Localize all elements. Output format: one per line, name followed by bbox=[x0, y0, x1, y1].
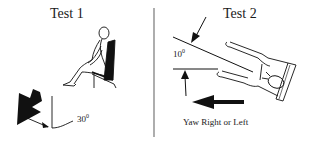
lower-arm-outer bbox=[222, 71, 248, 78]
test2-angle-label: 100 bbox=[173, 48, 185, 59]
arm bbox=[88, 46, 101, 63]
test1-angle-value: 30 bbox=[77, 114, 86, 124]
test1-angle-diagram bbox=[17, 89, 73, 128]
thigh-top bbox=[80, 60, 92, 68]
chair-back bbox=[104, 40, 115, 80]
small-arrowhead-icon bbox=[42, 122, 49, 128]
yaw-left-arrow-icon bbox=[192, 95, 214, 109]
seated-person-figure bbox=[63, 27, 116, 88]
yaw-arrow-shaft bbox=[212, 100, 244, 104]
shin-back bbox=[74, 72, 82, 84]
upper-arm bbox=[226, 42, 270, 66]
upper-arm-outer bbox=[230, 42, 268, 58]
head bbox=[99, 27, 109, 39]
test2-title: Test 2 bbox=[223, 6, 257, 22]
horizontal-pointer-arrowhead-icon bbox=[181, 70, 189, 79]
test1-angle-degree: 0 bbox=[86, 113, 89, 119]
test2-angle-value: 10 bbox=[173, 49, 182, 59]
torso-line bbox=[260, 64, 262, 80]
test1-angle-label: 300 bbox=[77, 113, 89, 124]
thrust-arrow-down-left-icon bbox=[17, 89, 42, 125]
incline-line bbox=[173, 37, 253, 72]
angle-arc bbox=[52, 121, 73, 128]
shoulder-top bbox=[268, 58, 288, 63]
shin-front bbox=[63, 68, 80, 85]
test1-title: Test 1 bbox=[50, 6, 84, 22]
test2-angle-degree: 0 bbox=[182, 48, 185, 54]
supine-person-figure bbox=[173, 37, 296, 101]
board bbox=[276, 63, 296, 101]
shoulder-bottom bbox=[258, 86, 278, 96]
diagram-canvas bbox=[0, 0, 319, 145]
test2-caption: Yaw Right or Left bbox=[183, 117, 248, 127]
arm-inner bbox=[90, 50, 102, 65]
test2-arrows bbox=[181, 17, 244, 109]
incline-pointer-arrowhead-icon bbox=[191, 32, 200, 43]
lower-arm bbox=[217, 72, 258, 86]
